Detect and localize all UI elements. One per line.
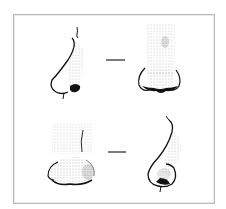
nose-illustration bbox=[0, 0, 226, 209]
nose-frontal-bottom-left bbox=[48, 124, 94, 185]
nose-profile-top-left bbox=[51, 27, 84, 99]
nose-frontal-top-right bbox=[139, 24, 180, 93]
nose-profile-bottom-right bbox=[148, 116, 181, 192]
